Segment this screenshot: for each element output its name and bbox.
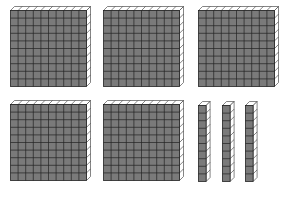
hundred-flat-block xyxy=(10,100,91,181)
ten-rod-block xyxy=(245,101,258,182)
hundred-flat-block xyxy=(103,6,184,87)
ten-rod-block xyxy=(198,101,211,182)
hundred-flat-block xyxy=(198,6,279,87)
hundred-flat-block xyxy=(103,100,184,181)
hundred-flat-block xyxy=(10,6,91,87)
ten-rod-block xyxy=(222,101,235,182)
